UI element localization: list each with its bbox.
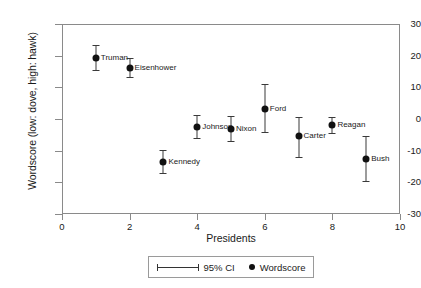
x-tick-label: 0 (47, 221, 77, 232)
x-tick-mark (265, 214, 266, 220)
data-point-label: Nixon (236, 124, 256, 133)
y-tick-mark (55, 119, 62, 120)
error-bar-cap (160, 150, 167, 151)
y-tick-label: 0 (373, 113, 421, 124)
data-point-label: Reagan (337, 120, 365, 129)
x-tick-label: 6 (250, 221, 280, 232)
y-tick-mark (55, 151, 62, 152)
legend-item-wordscore: Wordscore (249, 262, 306, 273)
x-tick-label: 8 (317, 221, 347, 232)
x-tick-label: 10 (385, 221, 415, 232)
data-point-label: Ford (270, 104, 286, 113)
error-bar-cap (295, 117, 302, 118)
data-point-label: Truman (101, 53, 128, 62)
y-tick-label: 30 (373, 18, 421, 29)
error-bar-cap (92, 45, 99, 46)
x-tick-mark (130, 214, 131, 220)
x-axis-title: Presidents (62, 232, 400, 244)
y-tick-label: 20 (373, 50, 421, 61)
data-point (329, 122, 336, 129)
legend-label-ci: 95% CI (204, 262, 235, 273)
error-bar-cap (92, 70, 99, 71)
filled-circle-icon (249, 264, 255, 270)
error-bar-cap (261, 84, 268, 85)
data-point (295, 133, 302, 140)
y-tick-mark (55, 87, 62, 88)
data-point (363, 155, 370, 162)
wordscore-presidents-chart: Wordscore (low: dove, high: hawk) Presid… (0, 0, 421, 288)
y-tick-mark (55, 24, 62, 25)
error-bar-cap (261, 132, 268, 133)
y-tick-mark (55, 56, 62, 57)
y-axis-title: Wordscore (low: dove, high: hawk) (26, 16, 38, 206)
x-tick-mark (400, 214, 401, 220)
data-point-label: Kennedy (168, 157, 200, 166)
x-tick-label: 4 (182, 221, 212, 232)
y-tick-label: -20 (373, 176, 421, 187)
x-tick-label: 2 (115, 221, 145, 232)
data-point-label: Bush (371, 154, 389, 163)
x-tick-mark (62, 214, 63, 220)
error-bar-icon (157, 263, 199, 272)
error-bar-cap (228, 116, 235, 117)
data-point (126, 65, 133, 72)
x-tick-mark (197, 214, 198, 220)
data-point (261, 105, 268, 112)
error-bar-cap (363, 136, 370, 137)
data-point (92, 54, 99, 61)
y-tick-label: -30 (373, 208, 421, 219)
error-bar-cap (194, 115, 201, 116)
x-tick-mark (332, 214, 333, 220)
y-tick-label: 10 (373, 81, 421, 92)
error-bar-cap (363, 181, 370, 182)
data-point (160, 158, 167, 165)
data-point (228, 125, 235, 132)
error-bar-cap (126, 77, 133, 78)
error-bar-cap (295, 157, 302, 158)
legend-item-ci: 95% CI (157, 262, 235, 273)
data-point-label: Carter (304, 131, 326, 140)
data-point (194, 123, 201, 130)
error-bar-cap (194, 138, 201, 139)
legend-label-wordscore: Wordscore (260, 262, 306, 273)
error-bar-cap (228, 141, 235, 142)
error-bar-cap (126, 58, 133, 59)
error-bar-cap (329, 133, 336, 134)
y-tick-mark (55, 182, 62, 183)
chart-legend: 95% CI Wordscore (148, 256, 314, 278)
error-bar-cap (160, 173, 167, 174)
data-point-label: Eisenhower (135, 63, 177, 72)
y-tick-mark (55, 214, 62, 215)
error-bar-cap (329, 117, 336, 118)
